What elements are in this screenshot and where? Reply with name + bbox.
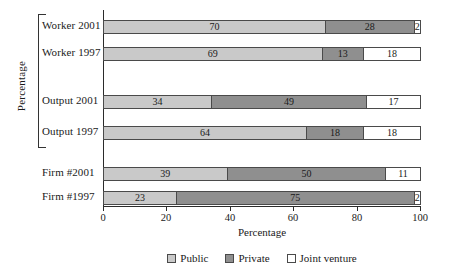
category-label-worker-2001: Worker 2001 [42,19,102,31]
bar-segment-output-2001-public: 34 [103,95,212,109]
bar-segment-firm-2001-joint-venture: 11 [385,167,421,181]
bar-segment-value: 28 [365,21,375,32]
stacked-bar-chart: Percentage Worker 2001 Worker 1997 Outpu… [0,0,455,275]
x-tick-label-40: 40 [210,212,250,223]
x-tick-60 [293,206,294,211]
bar-segment-value: 50 [301,168,311,179]
bar-segment-value: 23 [135,192,145,203]
x-axis-line [103,206,421,207]
bar-segment-worker-2001-private: 28 [325,20,415,34]
bar-segment-value: 64 [200,127,210,138]
legend-label-joint-venture: Joint venture [300,252,357,264]
bar-segment-worker-1997-joint-venture: 18 [363,47,421,61]
bar-row-output-2001: 344917 [103,95,421,109]
legend-swatch-joint-venture-icon [287,254,296,263]
category-label-worker-1997: Worker 1997 [42,46,102,58]
legend-label-private: Private [238,252,269,264]
bar-segment-worker-1997-private: 13 [322,47,364,61]
bar-segment-output-1997-public: 64 [103,126,307,140]
bar-segment-worker-2001-public: 70 [103,20,326,34]
bar-segment-value: 69 [208,48,218,59]
bar-segment-firm-2001-private: 50 [227,167,387,181]
category-label-output-1997: Output 1997 [42,125,102,137]
bar-row-output-1997: 641818 [103,126,421,140]
x-axis-label: Percentage [103,226,421,238]
x-tick-100 [420,206,421,211]
bar-segment-value: 70 [209,21,219,32]
x-tick-label-100: 100 [400,212,440,223]
bar-segment-value: 39 [160,168,170,179]
bar-segment-worker-2001-joint-venture: 2 [414,20,421,34]
legend-swatch-private-icon [225,254,234,263]
bar-segment-value: 34 [152,96,162,107]
bar-segment-value: 49 [284,96,294,107]
bar-segment-value: 18 [330,127,340,138]
bar-segment-output-1997-joint-venture: 18 [363,126,421,140]
bar-segment-value: 11 [398,168,408,179]
legend-label-public: Public [180,252,208,264]
category-label-firm-1997: Firm #1997 [42,190,102,202]
bar-segment-firm-2001-public: 39 [103,167,228,181]
bar-segment-value: 75 [290,192,300,203]
bar-segment-value: 2 [415,21,420,32]
x-tick-label-0: 0 [83,212,123,223]
x-tick-20 [166,206,167,211]
legend: Public Private Joint venture [103,252,421,264]
bar-segment-output-2001-private: 49 [211,95,367,109]
y-axis-label: Percentage [15,41,27,131]
bar-segment-firm-1997-private: 75 [176,191,415,205]
legend-item-private: Private [225,252,269,264]
bar-segment-output-2001-joint-venture: 17 [366,95,421,109]
legend-item-public: Public [167,252,208,264]
bar-segment-worker-1997-public: 69 [103,47,323,61]
bar-row-worker-1997: 691318 [103,47,421,61]
bar-row-firm-1997: 23752 [103,191,421,205]
bar-segment-value: 17 [389,96,399,107]
bar-segment-value: 13 [338,48,348,59]
bar-segment-value: 2 [415,192,420,203]
x-tick-label-20: 20 [146,212,186,223]
legend-item-joint-venture: Joint venture [287,252,357,264]
x-tick-label-60: 60 [273,212,313,223]
bar-segment-value: 18 [387,127,397,138]
legend-swatch-public-icon [167,254,176,263]
category-label-output-2001: Output 2001 [42,94,102,106]
x-tick-40 [230,206,231,211]
bar-segment-value: 18 [387,48,397,59]
category-label-firm-2001: Firm #2001 [42,166,102,178]
x-tick-label-80: 80 [337,212,377,223]
bar-segment-firm-1997-joint-venture: 2 [414,191,421,205]
bar-row-worker-2001: 70282 [103,20,421,34]
x-tick-80 [357,206,358,211]
bar-segment-output-1997-private: 18 [306,126,364,140]
bar-segment-firm-1997-public: 23 [103,191,177,205]
x-tick-0 [103,206,104,211]
bar-row-firm-2001: 395011 [103,167,421,181]
